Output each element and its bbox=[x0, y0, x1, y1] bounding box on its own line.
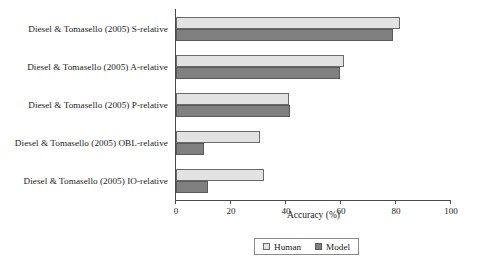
bar-model bbox=[176, 143, 204, 155]
x-tick-80 bbox=[395, 200, 396, 204]
legend-swatch-human-icon bbox=[263, 243, 270, 250]
bar-model bbox=[176, 67, 340, 79]
bar-model bbox=[176, 105, 290, 117]
legend-label: Model bbox=[326, 242, 350, 252]
x-axis-title: Accuracy (%) bbox=[176, 210, 451, 220]
accuracy-bar-chart: Diesel & Tomasello (2005) S-relativeDies… bbox=[0, 0, 481, 265]
x-tick-0 bbox=[175, 200, 176, 204]
category-label: Diesel & Tomasello (2005) OBL-relative bbox=[0, 138, 168, 148]
bar-human bbox=[176, 93, 289, 105]
category-label: Diesel & Tomasello (2005) IO-relative bbox=[0, 176, 168, 186]
bar-human bbox=[176, 55, 344, 67]
category-label: Diesel & Tomasello (2005) P-relative bbox=[0, 100, 168, 110]
category-label: Diesel & Tomasello (2005) S-relative bbox=[0, 24, 168, 34]
x-tick-20 bbox=[230, 200, 231, 204]
bar-model bbox=[176, 181, 208, 193]
chart-legend: HumanModel bbox=[254, 238, 359, 255]
category-label: Diesel & Tomasello (2005) A-relative bbox=[0, 62, 168, 72]
x-tick-40 bbox=[285, 200, 286, 204]
legend-swatch-model-icon bbox=[315, 243, 322, 250]
x-tick-100 bbox=[450, 200, 451, 204]
bar-human bbox=[176, 131, 260, 143]
legend-label: Human bbox=[274, 242, 301, 252]
category-axis-labels: Diesel & Tomasello (2005) S-relativeDies… bbox=[0, 10, 172, 200]
bar-model bbox=[176, 29, 393, 41]
bar-human bbox=[176, 17, 400, 29]
x-tick-60 bbox=[340, 200, 341, 204]
legend-item-model: Model bbox=[315, 242, 350, 252]
x-axis-line bbox=[175, 200, 451, 201]
plot-area: 020406080100 bbox=[176, 10, 451, 200]
bar-human bbox=[176, 169, 264, 181]
legend-item-human: Human bbox=[263, 242, 301, 252]
